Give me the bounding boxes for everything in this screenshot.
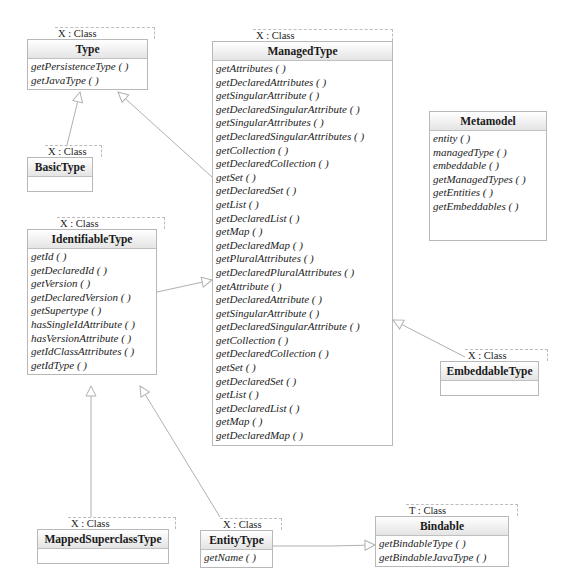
operation: getList ( )	[216, 198, 389, 212]
class-name: IdentifiableType	[28, 230, 156, 249]
operation: getSupertype ( )	[31, 304, 153, 318]
operation: hasSingleIdAttribute ( )	[31, 318, 153, 332]
operation: getDeclaredSingularAttribute ( )	[216, 103, 389, 117]
operation: getSingularAttribute ( )	[216, 89, 389, 103]
operation: getMap ( )	[216, 415, 389, 429]
operation: getBindableJavaType ( )	[379, 551, 505, 565]
class-bindable[interactable]: Bindable getBindableType ( ) getBindable…	[375, 516, 509, 567]
operations-list: getName ( )	[201, 550, 272, 567]
operation: getName ( )	[204, 551, 269, 565]
basictype-template-param: X : Class	[45, 145, 102, 157]
class-name: EntityType	[201, 531, 272, 550]
entitytype-template-param: X : Class	[220, 518, 282, 530]
embeddabletype-generalization-line	[393, 320, 465, 357]
class-entitytype[interactable]: EntityType getName ( )	[200, 530, 273, 568]
operations-list: getAttributes ( ) getDeclaredAttributes …	[213, 61, 392, 445]
empty-compartment	[441, 381, 538, 395]
empty-compartment	[28, 177, 92, 191]
class-name: Bindable	[376, 517, 508, 536]
operation: getSingularAttribute ( )	[216, 307, 389, 321]
class-basictype[interactable]: BasicType	[27, 157, 93, 192]
operation: getDeclaredCollection ( )	[216, 347, 389, 361]
empty-compartment	[38, 549, 168, 563]
class-mappedsuperclasstype[interactable]: MappedSuperclassType	[37, 529, 169, 564]
operation: getDeclaredAttributes ( )	[216, 76, 389, 90]
class-name: Metamodel	[430, 112, 546, 131]
operation: getEmbeddables ( )	[433, 200, 543, 214]
operation: getDeclaredAttribute ( )	[216, 293, 389, 307]
operation: managedType ( )	[433, 146, 543, 160]
bindable-template-param: T : Class	[406, 504, 518, 516]
class-name: Type	[28, 40, 147, 59]
class-embeddabletype[interactable]: EmbeddableType	[440, 361, 539, 396]
entitytype-generalization-line	[140, 386, 220, 517]
operations-list: getId ( ) getDeclaredId ( ) getVersion (…	[28, 249, 156, 374]
operation: getDeclaredMap ( )	[216, 429, 389, 443]
operation: getAttribute ( )	[216, 280, 389, 294]
type-template-param: X : Class	[55, 27, 155, 39]
operation: getAttributes ( )	[216, 62, 389, 76]
operation: getDeclaredList ( )	[216, 212, 389, 226]
operation: getDeclaredSet ( )	[216, 375, 389, 389]
entitytype-bindable-line	[272, 545, 375, 546]
operation: getIdClassAttributes ( )	[31, 345, 153, 359]
operation: entity ( )	[433, 132, 543, 146]
operation: getIdType ( )	[31, 359, 153, 373]
embeddabletype-template-param: X : Class	[465, 349, 548, 361]
operation: getDeclaredMap ( )	[216, 239, 389, 253]
managedtype-generalization-line	[118, 92, 212, 177]
operation: getEntities ( )	[433, 186, 543, 200]
class-metamodel[interactable]: Metamodel entity ( ) managedType ( ) emb…	[429, 111, 547, 241]
identifiabletype-template-param: X : Class	[57, 217, 165, 229]
operations-list: getPersistenceType ( ) getJavaType ( )	[28, 59, 147, 89]
operation: getId ( )	[31, 250, 153, 264]
class-identifiabletype[interactable]: IdentifiableType getId ( ) getDeclaredId…	[27, 229, 157, 375]
class-name: EmbeddableType	[441, 362, 538, 381]
operation: getBindableType ( )	[379, 537, 505, 551]
operation: getSingularAttributes ( )	[216, 116, 389, 130]
operation: getCollection ( )	[216, 334, 389, 348]
operations-list: entity ( ) managedType ( ) embeddable ( …	[430, 131, 546, 216]
basictype-generalization-line	[67, 92, 80, 145]
operation: getSet ( )	[216, 361, 389, 375]
operation: getDeclaredPluralAttributes ( )	[216, 266, 389, 280]
identifiabletype-generalization-line	[157, 280, 212, 292]
operation: getDeclaredId ( )	[31, 264, 153, 278]
operation: getList ( )	[216, 388, 389, 402]
class-managedtype[interactable]: ManagedType getAttributes ( ) getDeclare…	[212, 41, 393, 446]
mappedsuperclass-template-param: X : Class	[68, 517, 176, 529]
class-name: BasicType	[28, 158, 92, 177]
operation: embeddable ( )	[433, 159, 543, 173]
operation: getDeclaredSet ( )	[216, 184, 389, 198]
operation: getDeclaredSingularAttribute ( )	[216, 320, 389, 334]
operation: getManagedTypes ( )	[433, 173, 543, 187]
operation: getCollection ( )	[216, 144, 389, 158]
operation: getDeclaredList ( )	[216, 402, 389, 416]
operation: getDeclaredSingularAttributes ( )	[216, 130, 389, 144]
operation: getPluralAttributes ( )	[216, 252, 389, 266]
operation: getDeclaredVersion ( )	[31, 291, 153, 305]
operation: getMap ( )	[216, 225, 389, 239]
class-name: ManagedType	[213, 42, 392, 61]
operation: getSet ( )	[216, 171, 389, 185]
operation: hasVersionAttribute ( )	[31, 332, 153, 346]
operation: getPersistenceType ( )	[31, 60, 144, 74]
operation: getVersion ( )	[31, 277, 153, 291]
operations-list: getBindableType ( ) getBindableJavaType …	[376, 536, 508, 566]
class-name: MappedSuperclassType	[38, 530, 168, 549]
operation: getDeclaredCollection ( )	[216, 157, 389, 171]
managedtype-template-param: X : Class	[253, 29, 393, 41]
operation: getJavaType ( )	[31, 74, 144, 88]
class-type[interactable]: Type getPersistenceType ( ) getJavaType …	[27, 39, 148, 90]
